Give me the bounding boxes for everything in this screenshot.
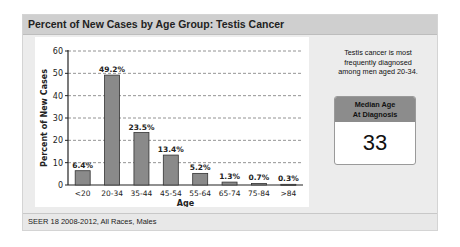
bar [134, 133, 149, 185]
y-tick-label: 40 [53, 92, 63, 101]
bar-value-label: 5.2% [190, 163, 211, 172]
median-age-value: 33 [335, 130, 415, 156]
y-tick-label: 10 [53, 159, 63, 168]
y-tick-label: 20 [53, 136, 63, 145]
y-tick-label: 60 [53, 47, 63, 56]
x-tick-label: 75-84 [248, 189, 270, 198]
y-tick-label: 50 [53, 69, 63, 78]
panel-footer: SEER 18 2008-2012, All Races, Males [23, 213, 437, 230]
source-note: SEER 18 2008-2012, All Races, Males [28, 217, 156, 226]
bar-chart: 01020304050606.4%<2049.2%20-3423.5%35-44… [35, 37, 309, 207]
x-tick-label: <20 [75, 189, 91, 198]
x-tick-label: 45-54 [160, 189, 182, 198]
side-note-line: Testis cancer is most [323, 48, 433, 58]
bar-value-label: 23.5% [128, 123, 155, 132]
x-tick-label: >84 [280, 189, 296, 198]
y-tick-label: 30 [53, 114, 63, 123]
median-label-line: At Diagnosis [335, 110, 415, 120]
bar [193, 173, 208, 185]
bar [163, 155, 178, 185]
bar [222, 182, 237, 185]
panel-title: Percent of New Cases by Age Group: Testi… [28, 18, 284, 30]
y-tick-label: 0 [58, 181, 63, 190]
y-axis-label: Percent of New Cases [40, 69, 49, 167]
x-tick-label: 55-64 [189, 189, 211, 198]
bar-value-label: 6.4% [72, 161, 93, 170]
x-tick-label: 20-34 [101, 189, 123, 198]
bar-value-label: 0.3% [278, 174, 299, 183]
chart-area: 01020304050606.4%<2049.2%20-3423.5%35-44… [35, 37, 309, 207]
x-tick-label: 65-74 [219, 189, 241, 198]
x-axis-label: Age [177, 199, 195, 207]
bar-value-label: 0.7% [249, 173, 270, 182]
median-age-card: Median Age At Diagnosis 33 [334, 96, 416, 165]
side-note-line: frequently diagnosed [323, 58, 433, 68]
x-tick-label: 35-44 [131, 189, 153, 198]
bar-value-label: 13.4% [158, 145, 185, 154]
side-panel: Testis cancer is most frequently diagnos… [323, 37, 433, 212]
bar-value-label: 49.2% [99, 65, 126, 74]
panel-titlebar: Percent of New Cases by Age Group: Testi… [23, 15, 437, 35]
side-note-line: among men aged 20-34. [323, 67, 433, 77]
bar [251, 183, 266, 185]
median-label-line: Median Age [335, 100, 415, 110]
bar [75, 171, 90, 185]
bar [281, 184, 296, 185]
side-note: Testis cancer is most frequently diagnos… [323, 48, 433, 77]
median-age-label: Median Age At Diagnosis [335, 97, 415, 122]
bar-value-label: 1.3% [219, 172, 240, 181]
chart-panel: Percent of New Cases by Age Group: Testi… [22, 14, 438, 231]
bar [105, 75, 120, 185]
